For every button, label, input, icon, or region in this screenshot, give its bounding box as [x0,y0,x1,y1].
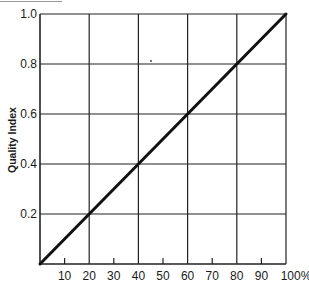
x-axis-ticks [65,258,262,264]
y-tick-label: 0.8 [20,57,37,71]
scan-speck [150,60,152,62]
y-axis-tick-labels: 0.20.40.60.81.0 [20,7,37,221]
x-tick-label: 70 [206,269,220,283]
x-tick-label: 30 [107,269,121,283]
x-tick-label: 80 [230,269,244,283]
y-tick-label: 0.2 [20,207,37,221]
x-axis-tick-labels: 102030405060708090100% [58,269,309,283]
x-tick-label: 10 [58,269,72,283]
y-tick-label: 0.6 [20,107,37,121]
x-tick-label: 100% [281,269,309,283]
chart: 102030405060708090100% 0.20.40.60.81.0 Q… [0,0,309,292]
data-series [40,14,286,264]
x-tick-label: 60 [181,269,195,283]
line-chart-svg: 102030405060708090100% 0.20.40.60.81.0 Q… [0,0,309,292]
x-tick-label: 40 [132,269,146,283]
x-tick-label: 50 [156,269,170,283]
series-line [40,14,286,264]
x-tick-label: 20 [83,269,97,283]
y-axis-title: Quality Index [6,107,18,173]
y-tick-label: 1.0 [20,7,37,21]
x-tick-label: 90 [255,269,269,283]
y-tick-label: 0.4 [20,157,37,171]
